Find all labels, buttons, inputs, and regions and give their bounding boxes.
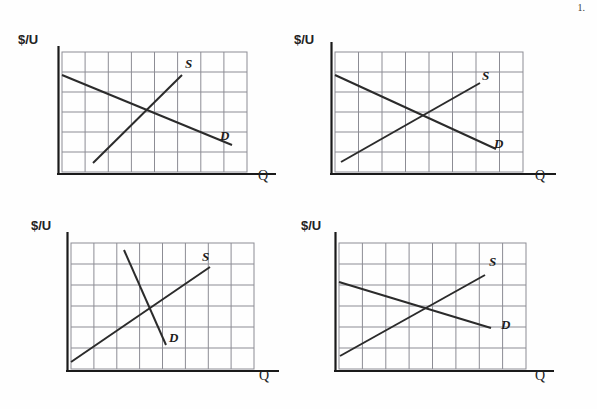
chart-svg-1	[14, 28, 289, 193]
demand-curve-1	[62, 75, 232, 145]
axes-4	[334, 232, 554, 372]
demand-curve-label-1: D	[220, 128, 229, 144]
worksheet-page: 1. $/U Q S D	[0, 0, 597, 409]
y-axis-label-1: $/U	[18, 32, 38, 47]
chart-svg-4	[292, 212, 572, 397]
demand-curve-label-3: D	[169, 330, 178, 346]
supply-curve-label-2: S	[482, 68, 489, 84]
supply-curve-label-3: S	[202, 249, 209, 265]
y-axis-label-4: $/U	[301, 218, 321, 233]
x-axis-label-3: Q	[259, 368, 269, 384]
supply-demand-chart-4: $/U Q S D	[292, 212, 572, 397]
grid-1	[62, 52, 247, 172]
supply-curve-label-4: S	[489, 254, 496, 270]
supply-curve-label-1: S	[185, 56, 192, 72]
demand-curve-label-4: D	[501, 317, 510, 333]
axes-2	[330, 42, 556, 175]
supply-curve-4	[340, 275, 485, 356]
supply-demand-chart-3: $/U Q S D	[14, 212, 294, 397]
x-axis-label-2: Q	[535, 168, 545, 184]
supply-curve-2	[341, 83, 480, 162]
grid-4	[339, 243, 526, 369]
chart-svg-3	[14, 212, 294, 397]
grid-3	[71, 243, 254, 369]
chart-svg-2	[290, 28, 575, 193]
supply-demand-chart-2: $/U Q S D	[290, 28, 575, 193]
y-axis-label-2: $/U	[294, 32, 314, 47]
x-axis-label-1: Q	[258, 168, 268, 184]
demand-curve-label-2: D	[494, 136, 503, 152]
axes-3	[66, 232, 279, 372]
supply-demand-chart-1: $/U Q S D	[14, 28, 289, 193]
x-axis-label-4: Q	[535, 368, 545, 384]
demand-curve-4	[339, 282, 491, 328]
y-axis-label-3: $/U	[31, 218, 51, 233]
header-faint-text	[14, 0, 264, 8]
question-number: 1.	[578, 2, 586, 13]
axes-1	[57, 46, 276, 175]
